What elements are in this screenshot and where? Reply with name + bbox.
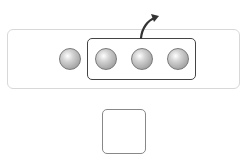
ball-1 [59,48,81,70]
ball-4 [167,48,189,70]
answer-box[interactable] [102,109,146,154]
take-away-arrow-icon [130,10,170,42]
ball-3 [131,48,153,70]
ball-2 [95,48,117,70]
